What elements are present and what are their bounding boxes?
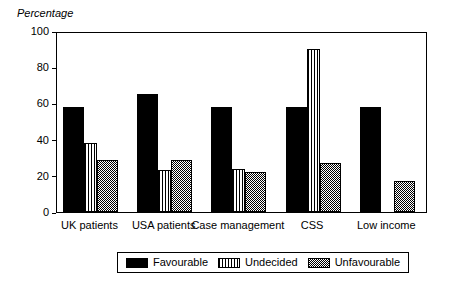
chart-legend: FavourableUndecidedUnfavourable bbox=[117, 252, 409, 273]
legend-item-undecided: Undecided bbox=[218, 257, 298, 268]
y-tick-label: 0 bbox=[43, 207, 49, 218]
legend-swatch-unfavourable bbox=[308, 258, 330, 268]
y-tick-label: 100 bbox=[31, 26, 49, 37]
bar-unfavourable-2 bbox=[245, 172, 266, 212]
legend-item-favourable: Favourable bbox=[126, 257, 208, 268]
legend-swatch-favourable bbox=[126, 258, 148, 268]
bar-unfavourable-3 bbox=[320, 163, 341, 212]
bar-favourable-4 bbox=[360, 107, 381, 212]
bar-favourable-0 bbox=[63, 107, 84, 212]
legend-label: Favourable bbox=[153, 257, 208, 268]
y-tick-label: 60 bbox=[37, 98, 49, 109]
x-axis-label-1: USA patients bbox=[132, 219, 196, 231]
x-axis-label-2: Case management bbox=[191, 219, 284, 231]
bar-unfavourable-0 bbox=[97, 160, 118, 212]
y-tick-label: 40 bbox=[37, 135, 49, 146]
legend-swatch-undecided bbox=[218, 258, 240, 268]
plot-area bbox=[56, 32, 427, 213]
legend-item-unfavourable: Unfavourable bbox=[308, 257, 400, 268]
bar-favourable-1 bbox=[137, 94, 158, 212]
bar-favourable-3 bbox=[286, 107, 307, 212]
x-axis-label-3: CSS bbox=[301, 219, 324, 231]
y-tick-label: 20 bbox=[37, 171, 49, 182]
bar-undecided-1 bbox=[158, 170, 171, 212]
x-axis-label-4: Low income bbox=[357, 219, 416, 231]
bar-undecided-3 bbox=[307, 49, 320, 212]
bar-favourable-2 bbox=[211, 107, 232, 212]
x-axis-label-0: UK patients bbox=[61, 219, 118, 231]
bar-undecided-2 bbox=[232, 169, 245, 212]
legend-label: Unfavourable bbox=[335, 257, 400, 268]
y-tick-label: 80 bbox=[37, 62, 49, 73]
bar-unfavourable-4 bbox=[394, 181, 415, 212]
y-axis-title: Percentage bbox=[17, 7, 73, 19]
bar-unfavourable-1 bbox=[171, 160, 192, 212]
legend-label: Undecided bbox=[245, 257, 298, 268]
bar-undecided-0 bbox=[84, 143, 97, 212]
bar-chart: Percentage 020406080100 UK patientsUSA p… bbox=[0, 0, 450, 290]
